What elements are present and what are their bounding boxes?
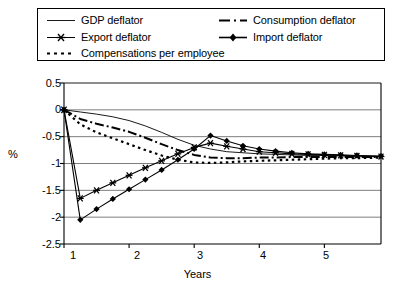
data-series-layer: [60, 107, 384, 223]
plot-area: [0, 0, 395, 289]
chart-figure: GDP deflator Consumption deflator: [0, 0, 395, 289]
series-export-deflator: [64, 110, 384, 202]
gridlines: [64, 110, 381, 217]
series-gdp-deflator: [64, 110, 381, 157]
x-tick-marks: [64, 244, 324, 248]
